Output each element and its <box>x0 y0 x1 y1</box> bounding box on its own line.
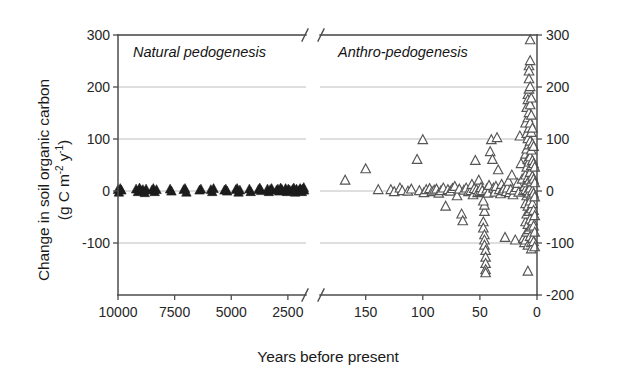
data-point-marker <box>457 209 467 218</box>
data-point-marker <box>474 175 484 184</box>
right-y-tick-label: 200 <box>546 79 601 95</box>
data-point-marker <box>485 147 495 156</box>
data-point-marker <box>525 56 535 65</box>
data-point-marker <box>507 170 516 179</box>
data-point-marker <box>361 164 371 173</box>
data-points <box>113 35 539 277</box>
x-tick-label: 5000 <box>216 304 247 320</box>
figure-root: Change in soil organic carbon (g C m-2 y… <box>0 0 617 384</box>
x-tick-label: 2500 <box>272 304 303 320</box>
gridlines <box>118 35 537 243</box>
left-y-tick-label: 200 <box>60 79 110 95</box>
data-point-marker <box>373 185 383 194</box>
x-tick-label: 10000 <box>99 304 138 320</box>
right-y-tick-label: -200 <box>546 287 601 303</box>
x-tick-label: 50 <box>472 304 488 320</box>
x-tick-label: 100 <box>411 304 434 320</box>
right-y-tick-label: -100 <box>546 235 601 251</box>
left-y-tick-label: 300 <box>60 27 110 43</box>
right-y-tick-label: 300 <box>546 27 601 43</box>
data-point-marker <box>500 232 510 241</box>
data-point-marker <box>525 35 535 44</box>
x-tick-label: 7500 <box>159 304 190 320</box>
data-point-marker <box>412 154 422 163</box>
tick-marks <box>113 35 542 300</box>
data-point-marker <box>523 266 533 275</box>
data-point-marker <box>492 133 502 142</box>
data-point-marker <box>441 201 451 210</box>
left-y-tick-label: -100 <box>60 235 110 251</box>
data-point-marker <box>340 175 350 184</box>
x-tick-label: 0 <box>533 304 541 320</box>
left-y-tick-label: 0 <box>60 183 110 199</box>
x-tick-label: 150 <box>354 304 377 320</box>
right-y-tick-label: 0 <box>546 183 601 199</box>
data-point-marker <box>471 156 481 165</box>
left-y-tick-label: 100 <box>60 131 110 147</box>
data-point-marker <box>493 165 503 174</box>
right-y-tick-label: 100 <box>546 131 601 147</box>
